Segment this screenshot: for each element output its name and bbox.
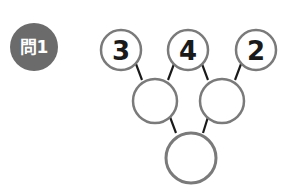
number-pyramid-figure: 問1 3 4 2 — [0, 0, 304, 189]
middle-blank-circle-2[interactable] — [200, 79, 244, 123]
top-row: 3 4 2 — [101, 30, 276, 70]
connector-line — [203, 117, 208, 133]
problem-badge: 問1 — [10, 23, 58, 71]
connector-line — [202, 64, 208, 80]
connector-line — [136, 64, 142, 80]
bottom-row — [166, 133, 216, 183]
bottom-blank-circle[interactable] — [166, 133, 216, 183]
connector-line — [168, 64, 174, 80]
problem-label: 問1 — [20, 37, 49, 57]
middle-row — [133, 79, 244, 123]
top-number-3: 2 — [247, 36, 265, 66]
connector-line — [170, 117, 176, 133]
middle-blank-circle-1[interactable] — [133, 79, 177, 123]
top-number-1: 3 — [112, 36, 130, 66]
connector-line — [235, 64, 241, 80]
top-number-2: 4 — [179, 36, 197, 66]
